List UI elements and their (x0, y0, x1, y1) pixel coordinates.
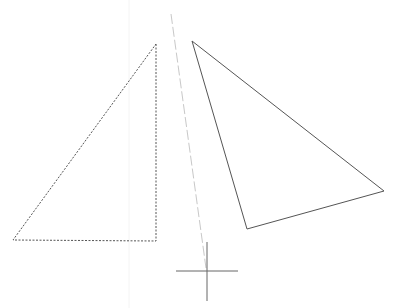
drawing-canvas[interactable] (0, 0, 397, 308)
original-triangle[interactable] (13, 44, 156, 241)
canvas-surface[interactable] (0, 0, 397, 308)
rotation-guide-line (171, 14, 206, 268)
crosshair-cursor-icon (176, 242, 238, 301)
rotated-triangle-preview[interactable] (192, 41, 384, 229)
